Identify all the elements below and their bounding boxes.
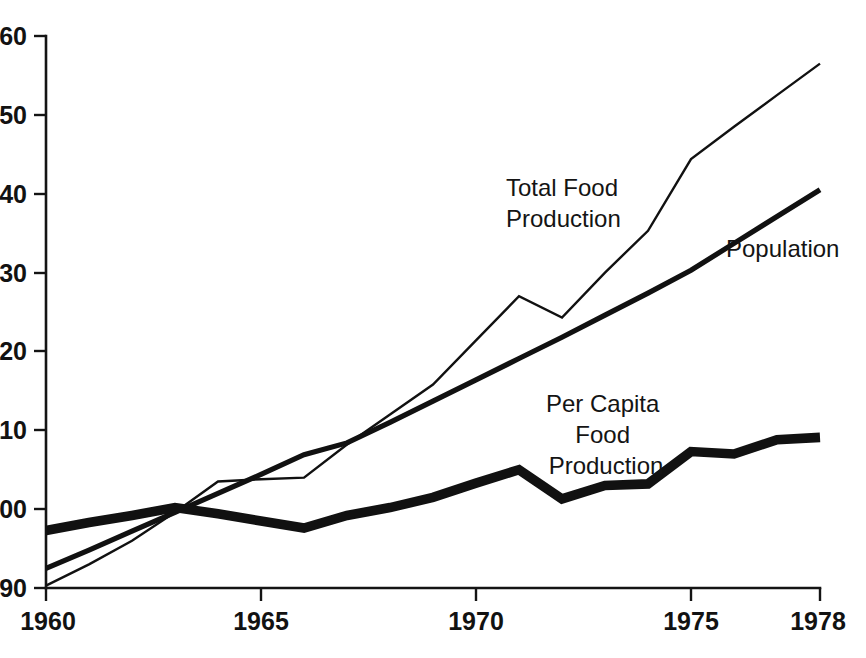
x-tick-label-1965: 1965 [233,607,289,635]
x-axis-tick-labels: 1960 1965 1970 1975 1978 [20,607,846,635]
total-food-label-line-1: Total Food [506,174,618,201]
per-capita-label-line-2: Food [575,421,630,448]
line-chart: 160 150 140 130 120 110 100 90 1960 1 [0,0,866,658]
x-tick-label-1978: 1978 [790,607,846,635]
y-axis: 160 150 140 130 120 110 100 90 [0,22,46,602]
per-capita-label-line-1: Per Capita [546,390,660,417]
x-tick-label-1960: 1960 [20,607,76,635]
y-tick-label-130: 130 [0,259,27,287]
total-food-production-label: Total Food Production [506,174,625,232]
x-axis-ticks [46,588,820,601]
y-axis-ticks [34,36,46,588]
y-tick-label-90: 90 [0,574,27,602]
x-axis: 1960 1965 1970 1975 1978 [20,588,846,635]
series-group [46,64,820,586]
y-tick-label-140: 140 [0,180,27,208]
per-capita-food-production-label: Per Capita Food Production [546,390,666,479]
chart-annotations: Total Food Production Population Per Cap… [506,174,839,479]
chart-container: 160 150 140 130 120 110 100 90 1960 1 [0,0,866,658]
population-label-line-1: Population [726,235,839,262]
per-capita-label-line-3: Production [549,452,664,479]
y-tick-label-150: 150 [0,101,27,129]
y-tick-label-120: 120 [0,337,27,365]
x-tick-label-1975: 1975 [663,607,719,635]
total-food-label-line-2: Production [506,205,621,232]
y-tick-label-100: 100 [0,495,27,523]
population-label: Population [726,235,839,262]
x-tick-label-1970: 1970 [448,607,504,635]
y-tick-label-110: 110 [0,416,27,444]
y-axis-tick-labels: 160 150 140 130 120 110 100 90 [0,22,27,602]
y-tick-label-160: 160 [0,22,27,50]
